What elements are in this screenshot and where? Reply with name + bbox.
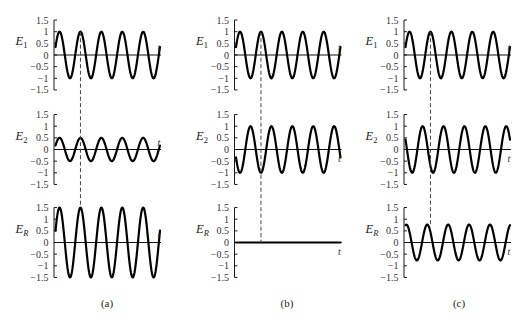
panel-b: 1.510.50−0.5−1−1.5E1t1.510.50−0.5−1−1.5E… [195, 15, 342, 310]
y-tick-label: −1.5 [211, 179, 229, 190]
plot-e1: 1.510.50−0.5−1−1.5E1t [365, 15, 512, 96]
series-symbol: E [365, 222, 374, 236]
series-subscript: 1 [23, 40, 27, 50]
series-symbol: E [195, 129, 204, 143]
y-tick-label: 1 [394, 214, 399, 225]
y-tick-label: −1 [218, 167, 229, 178]
y-tick-label: 0 [224, 144, 229, 155]
y-tick-label: −1.5 [30, 84, 48, 95]
series-label: ER [195, 222, 210, 238]
y-tick-label: 0.5 [386, 225, 399, 236]
series-subscript: 1 [204, 40, 208, 50]
y-tick-label: 0 [394, 144, 399, 155]
y-tick-label: 1 [44, 214, 49, 225]
y-tick-label: 0 [224, 50, 229, 61]
time-axis-label: t [338, 42, 341, 53]
y-tick-label: −1 [38, 73, 49, 84]
y-tick-label: −0.5 [30, 156, 48, 167]
y-tick-label: −1.5 [211, 84, 229, 95]
plot-e2: 1.510.50−0.5−1−1.5E2t [195, 109, 342, 190]
y-tick-label: 1 [394, 121, 399, 132]
y-tick-label: 1 [224, 26, 229, 37]
y-tick-label: 1.5 [36, 109, 49, 120]
y-tick-label: 0.5 [36, 38, 49, 49]
time-axis-label: t [338, 153, 341, 164]
panel-a: 1.510.50−0.5−1−1.5E1t1.510.50−0.5−1−1.5E… [15, 15, 162, 310]
series-symbol: E [365, 129, 374, 143]
y-tick-label: 0 [394, 50, 399, 61]
y-tick-label: 1 [44, 26, 49, 37]
y-tick-label: 1.5 [386, 15, 399, 26]
series-symbol: E [195, 34, 204, 48]
y-tick-label: −0.5 [30, 249, 48, 260]
y-tick-label: −1 [388, 167, 399, 178]
series-symbol: E [195, 222, 204, 236]
series-label: E2 [15, 129, 28, 145]
y-tick-label: −1.5 [211, 272, 229, 283]
y-tick-label: 1.5 [386, 109, 399, 120]
y-tick-label: −0.5 [380, 61, 398, 72]
series-subscript: 2 [204, 135, 208, 145]
y-tick-label: −0.5 [211, 61, 229, 72]
y-tick-label: −1 [38, 167, 49, 178]
y-tick-label: −1.5 [380, 84, 398, 95]
y-tick-label: 0 [44, 50, 49, 61]
series-label: E2 [195, 129, 208, 145]
series-subscript: 1 [373, 40, 377, 50]
series-symbol: E [15, 129, 24, 143]
series-subscript: R [372, 228, 379, 238]
time-axis-label: t [508, 42, 511, 53]
y-tick-label: −0.5 [380, 156, 398, 167]
y-tick-label: 1 [224, 214, 229, 225]
series-label: E1 [15, 34, 28, 50]
y-tick-label: −1 [38, 260, 49, 271]
y-tick-label: 1 [224, 121, 229, 132]
y-tick-label: 0.5 [217, 132, 230, 143]
series-label: ER [365, 222, 380, 238]
time-axis-label: t [158, 230, 161, 241]
series-subscript: R [203, 228, 210, 238]
y-tick-label: 1 [44, 121, 49, 132]
plot-e1: 1.510.50−0.5−1−1.5E1t [195, 15, 342, 96]
y-tick-label: 1.5 [217, 15, 230, 26]
y-tick-label: 0 [224, 237, 229, 248]
panel-caption: (b) [281, 297, 294, 310]
y-tick-label: 1.5 [36, 15, 49, 26]
plot-e2: 1.510.50−0.5−1−1.5E2t [15, 109, 162, 190]
time-axis-label: t [338, 246, 341, 257]
time-axis-label: t [158, 137, 161, 148]
y-tick-label: 0.5 [217, 38, 230, 49]
plot-er: 1.510.50−0.5−1−1.5ERt [365, 202, 512, 283]
y-tick-label: −0.5 [211, 156, 229, 167]
y-tick-label: −0.5 [30, 61, 48, 72]
y-tick-label: 1.5 [386, 202, 399, 213]
panel-caption: (a) [101, 297, 114, 310]
y-tick-label: −0.5 [380, 249, 398, 260]
plot-e1: 1.510.50−0.5−1−1.5E1t [15, 15, 162, 96]
y-tick-label: 1.5 [217, 202, 230, 213]
series-subscript: 2 [23, 135, 27, 145]
panel-c: 1.510.50−0.5−1−1.5E1t1.510.50−0.5−1−1.5E… [365, 15, 512, 310]
series-symbol: E [365, 34, 374, 48]
plot-er: 1.510.50−0.5−1−1.5ERt [195, 202, 342, 283]
y-tick-label: −1.5 [30, 179, 48, 190]
series-symbol: E [15, 222, 24, 236]
series-label: E1 [365, 34, 378, 50]
y-tick-label: −1.5 [380, 272, 398, 283]
y-tick-label: 0.5 [217, 225, 230, 236]
series-symbol: E [15, 34, 24, 48]
plot-e2: 1.510.50−0.5−1−1.5E2t [365, 109, 512, 190]
series-label: E2 [365, 129, 378, 145]
y-tick-label: −1 [388, 260, 399, 271]
time-axis-label: t [508, 246, 511, 257]
y-tick-label: 1 [394, 26, 399, 37]
time-axis-label: t [158, 42, 161, 53]
y-tick-label: 1.5 [217, 109, 230, 120]
y-tick-label: 0.5 [386, 132, 399, 143]
y-tick-label: −1 [218, 73, 229, 84]
y-tick-label: −1.5 [380, 179, 398, 190]
series-label: ER [15, 222, 30, 238]
panel-caption: (c) [453, 297, 466, 310]
y-tick-label: −0.5 [211, 249, 229, 260]
y-tick-label: 0 [44, 237, 49, 248]
